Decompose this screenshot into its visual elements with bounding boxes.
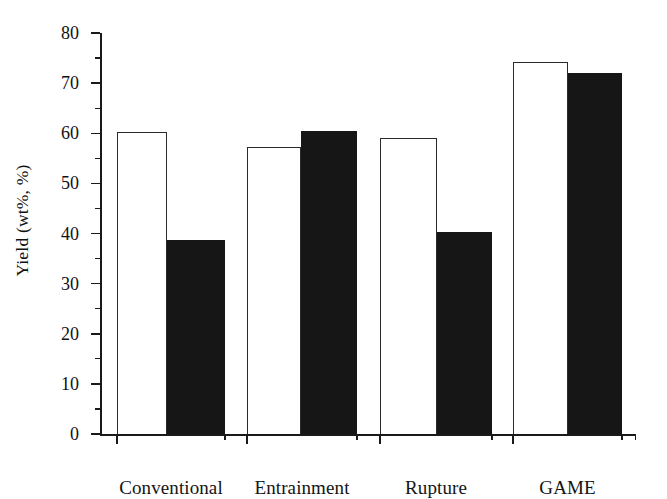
y-tick-minor — [95, 208, 101, 209]
x-category-label: Entrainment — [254, 477, 349, 499]
y-tick-label: 70 — [61, 73, 79, 94]
x-tick-minor — [635, 434, 636, 440]
y-tick-major — [91, 433, 100, 435]
y-tick-minor — [95, 408, 101, 409]
y-tick-major — [91, 32, 100, 34]
x-tick-major — [116, 434, 118, 444]
y-tick-label: 30 — [61, 273, 79, 294]
y-tick-major — [91, 333, 100, 335]
plot-area: 01020304050607080 ConventionalEntrainmen… — [100, 33, 636, 434]
bar-open — [117, 132, 167, 434]
bar-open — [380, 138, 437, 434]
x-category-label: GAME — [539, 477, 595, 499]
y-tick-label: 0 — [70, 424, 79, 445]
bar-open — [247, 147, 301, 434]
y-tick-minor — [95, 158, 101, 159]
y-axis-line — [100, 33, 102, 434]
y-tick-label: 10 — [61, 373, 79, 394]
y-axis-label: Yield (wt%, %) — [12, 164, 33, 276]
bar-filled — [167, 240, 225, 434]
x-tick-major — [246, 434, 248, 444]
y-tick-minor — [95, 258, 101, 259]
bar-filled — [301, 131, 357, 434]
y-tick-label: 60 — [61, 123, 79, 144]
x-tick-minor — [621, 434, 622, 440]
y-tick-major — [91, 233, 100, 235]
x-tick-minor — [491, 434, 492, 440]
y-tick-minor — [95, 358, 101, 359]
bar-filled — [568, 73, 622, 434]
x-tick-major — [512, 434, 514, 444]
y-tick-major — [91, 82, 100, 84]
y-tick-major — [91, 283, 100, 285]
y-tick-minor — [95, 108, 101, 109]
y-axis-label-container: Yield (wt%, %) — [0, 0, 44, 440]
y-tick-minor — [95, 57, 101, 58]
x-category-label: Conventional — [119, 477, 223, 499]
x-tick-major — [379, 434, 381, 444]
y-tick-major — [91, 383, 100, 385]
x-tick-minor — [356, 434, 357, 440]
bar-filled — [437, 232, 492, 434]
y-tick-label: 80 — [61, 23, 79, 44]
y-tick-label: 40 — [61, 223, 79, 244]
bar-open — [513, 62, 568, 434]
x-axis-line — [100, 434, 636, 436]
y-tick-minor — [95, 308, 101, 309]
y-tick-major — [91, 133, 100, 135]
x-category-label: Rupture — [405, 477, 467, 499]
x-tick-minor — [224, 434, 225, 440]
y-tick-major — [91, 183, 100, 185]
y-tick-label: 20 — [61, 323, 79, 344]
y-tick-label: 50 — [61, 173, 79, 194]
